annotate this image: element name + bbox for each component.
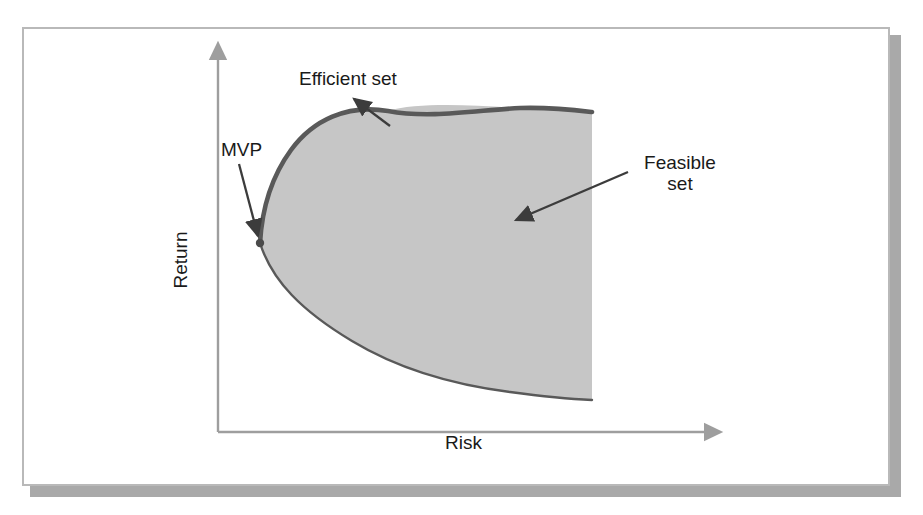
feasible-set-label-line1: Feasible	[644, 152, 716, 173]
feasible-set-label-line2: set	[667, 173, 692, 194]
mvp-label: MVP	[221, 139, 262, 160]
figure-root: Efficient set MVP Feasibleset Risk Retur…	[0, 0, 923, 515]
feasible-set-label: Feasibleset	[637, 152, 723, 195]
x-axis-label: Risk	[445, 432, 482, 453]
y-axis-label: Return	[170, 215, 191, 305]
efficient-set-label: Efficient set	[299, 68, 397, 89]
figure-frame	[22, 27, 890, 486]
